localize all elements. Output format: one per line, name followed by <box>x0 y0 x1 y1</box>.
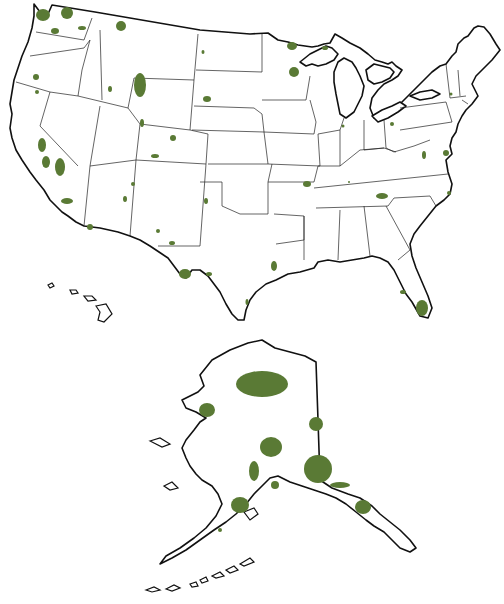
park-apostle-islands <box>289 67 299 77</box>
park-carlsbad <box>156 229 160 233</box>
park-padre-island <box>246 299 249 305</box>
alaska-island-nunivak <box>164 482 178 490</box>
park-olympic <box>36 9 50 21</box>
park-cape-hatteras <box>447 191 451 195</box>
park-dinosaur <box>151 154 159 158</box>
park-guadalupe <box>169 241 175 245</box>
park-everglades <box>416 300 428 316</box>
contiguous-us <box>10 4 500 320</box>
park-assateague <box>443 150 449 156</box>
park-mount-rainier <box>51 28 59 34</box>
park-hot-springs <box>303 181 311 187</box>
park-yellowstone <box>134 73 146 97</box>
park-tongass-strip <box>330 482 350 488</box>
park-yukon-charley <box>309 417 323 431</box>
hawaii-island-kauai <box>48 283 54 288</box>
park-lake-chelan <box>78 26 86 30</box>
park-glacier <box>116 21 126 31</box>
contiguous-us-outline <box>10 4 500 320</box>
park-death-valley <box>42 156 50 168</box>
park-cuyahoga <box>390 122 394 126</box>
park-indiana-dunes <box>342 125 345 128</box>
us-national-parks-map <box>0 0 504 604</box>
hawaii-island-big <box>96 304 112 322</box>
park-saguaro <box>87 224 93 230</box>
park-lake-clark <box>249 461 259 481</box>
park-catskill <box>450 93 453 96</box>
park-amistad <box>206 272 212 276</box>
park-rocky-mountain <box>170 135 176 141</box>
alaska-outline <box>160 340 416 564</box>
park-great-smoky <box>376 193 388 199</box>
hawaii-island-maui <box>84 296 96 301</box>
park-grand-teton <box>140 119 144 127</box>
park-shenandoah <box>422 151 426 159</box>
park-big-thicket <box>271 261 277 271</box>
park-aniakchak <box>218 528 222 532</box>
park-katmai <box>231 497 249 513</box>
park-denali <box>260 437 282 457</box>
park-glacier-bay <box>355 500 371 514</box>
park-yosemite <box>38 138 46 152</box>
park-mammoth-cave <box>348 181 350 183</box>
park-bering-land-bridge <box>199 403 215 417</box>
alaska-island-st-lawrence <box>150 438 170 447</box>
park-lassen <box>35 90 39 94</box>
park-craters-of-moon <box>108 86 112 92</box>
park-voyageurs <box>287 42 297 50</box>
park-petrified-forest <box>123 196 127 202</box>
park-joshua-tree <box>61 198 73 204</box>
park-big-bend <box>179 269 191 279</box>
park-big-cypress <box>400 290 406 294</box>
park-mesa-verde <box>131 182 135 186</box>
park-wind-cave <box>203 96 211 102</box>
hawaii <box>48 283 112 322</box>
park-wrangell-st-elias <box>304 455 332 483</box>
park-crater-lake <box>33 74 39 80</box>
park-wichita <box>204 198 208 204</box>
park-isle-royale <box>322 46 328 50</box>
park-kings-canyon-sequoia <box>55 158 65 176</box>
hawaii-island-oahu <box>70 290 78 294</box>
park-theodore-roosevelt <box>202 50 205 54</box>
park-kenai-fjords <box>271 481 279 489</box>
park-gates-of-the-arctic <box>236 371 288 397</box>
park-north-cascades <box>61 7 73 19</box>
